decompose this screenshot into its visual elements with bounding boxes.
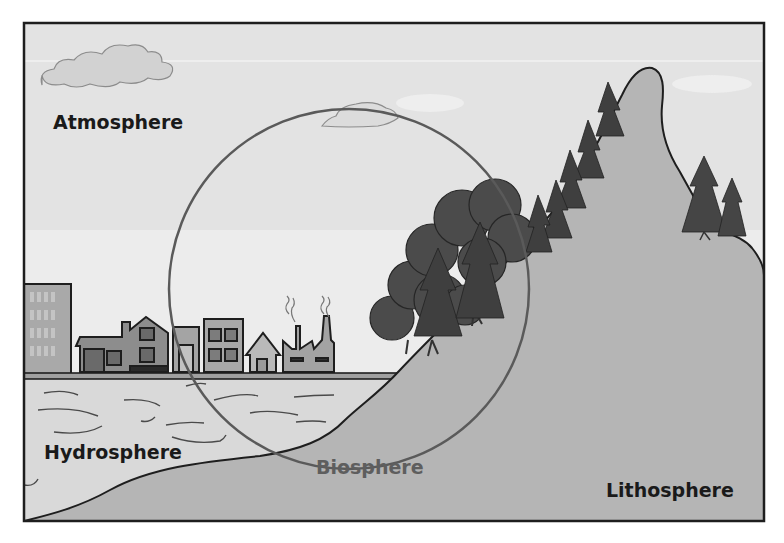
atmosphere-label: Atmosphere	[53, 111, 183, 133]
apartment-building	[204, 319, 243, 372]
biosphere-label: Biosphere	[316, 456, 424, 478]
lithosphere-label: Lithosphere	[606, 479, 734, 501]
spheres-diagram: Atmosphere Hydrosphere Biosphere Lithosp…	[0, 0, 784, 543]
hydrosphere-label: Hydrosphere	[44, 441, 182, 463]
shore-road	[24, 373, 404, 379]
